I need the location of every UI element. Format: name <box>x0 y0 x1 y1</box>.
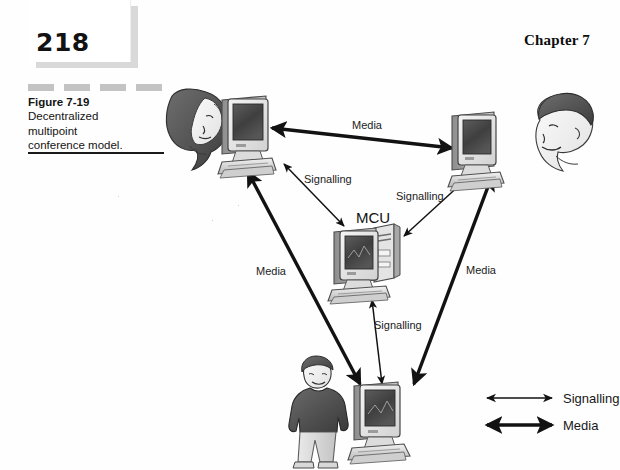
user-woman-head-icon <box>166 89 228 170</box>
edge-label-media-top: Media <box>352 119 382 131</box>
scan-speckle <box>212 220 213 221</box>
legend-label-signalling: Signalling <box>563 391 619 406</box>
legend-label-media: Media <box>563 418 598 433</box>
terminal-bottom-icon <box>348 382 410 464</box>
edge-media-top <box>272 128 452 148</box>
mcu-label: MCU <box>356 209 390 226</box>
edge-label-media-left: Media <box>256 265 286 277</box>
figure-diagram: Media Media Media Signalling Signalling … <box>0 0 620 470</box>
edge-label-media-right: Media <box>466 264 496 276</box>
edge-label-signalling-bottom: Signalling <box>374 319 422 331</box>
scan-speckle <box>118 196 119 197</box>
edge-label-signalling-right: Signalling <box>396 190 444 202</box>
textbook-page: 218 Chapter 7 Figure 7-19 Decentralized … <box>0 0 620 470</box>
terminal-top-left-icon <box>218 96 276 178</box>
mcu-terminal-icon <box>328 224 400 304</box>
terminal-top-right-icon <box>448 112 504 191</box>
edge-signalling-bottom <box>372 300 382 384</box>
edge-label-signalling-left: Signalling <box>304 173 352 185</box>
user-boy-standing-icon <box>289 356 348 468</box>
user-man-head-icon <box>536 93 594 171</box>
scan-speckle <box>238 205 239 206</box>
edge-media-right <box>414 176 492 384</box>
diagram-canvas <box>0 0 620 470</box>
